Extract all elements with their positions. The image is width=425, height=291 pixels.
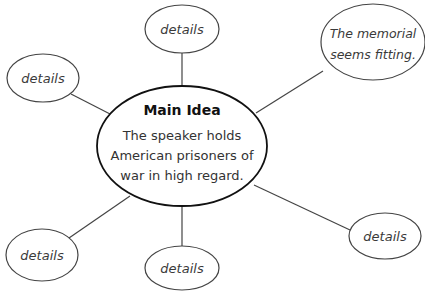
detail-node-bottom-left: details xyxy=(6,229,78,281)
connector-bottom-left xyxy=(69,196,130,238)
detail-text-line-1: The memorial xyxy=(330,26,417,41)
main-idea-node: Main Idea The speaker holds American pri… xyxy=(97,86,267,206)
detail-text: details xyxy=(20,248,64,263)
connector-top-right xyxy=(256,71,323,113)
main-idea-line-1: The speaker holds xyxy=(122,128,242,143)
detail-text: details xyxy=(363,229,407,244)
connector-bottom-right xyxy=(254,185,350,230)
detail-node-top: details xyxy=(145,5,219,53)
main-idea-line-2: American prisoners of xyxy=(111,148,254,163)
detail-node-bottom-right: details xyxy=(349,213,421,259)
detail-text: details xyxy=(160,22,204,37)
detail-text-line-2: seems fitting. xyxy=(330,47,416,62)
detail-text: details xyxy=(21,71,65,86)
connector-left xyxy=(71,94,112,115)
detail-node-left: details xyxy=(7,54,79,102)
detail-text: details xyxy=(160,261,204,276)
web-diagram: Main Idea The speaker holds American pri… xyxy=(0,0,425,291)
main-idea-line-3: war in high regard. xyxy=(120,168,243,183)
detail-node-bottom-middle: details xyxy=(145,246,219,290)
detail-node-top-right: The memorial seems fitting. xyxy=(321,4,425,80)
main-idea-title: Main Idea xyxy=(143,102,220,118)
